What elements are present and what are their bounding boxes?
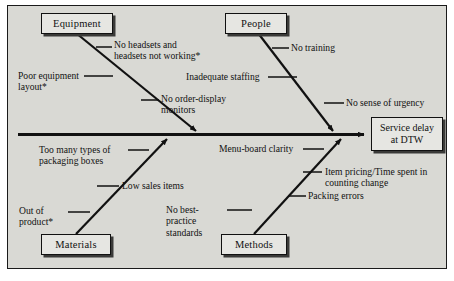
cause-label-packing-errors: Packing errors (308, 190, 394, 201)
cause-label-out-of-product: Out of product* (19, 205, 69, 228)
cause-label-low-sales-items: Low sales items (122, 180, 204, 191)
category-label-materials: Materials (55, 239, 96, 250)
cause-label-no-training: No training (291, 42, 361, 53)
cause-label-no-sense-of-urgency: No sense of urgency (346, 97, 446, 108)
cause-label-item-pricing-counting-change: Item pricing/Time spent in counting chan… (325, 166, 451, 189)
category-box-people[interactable]: People (225, 13, 287, 34)
cause-label-no-best-practice-standards: No best-practice standards (166, 204, 228, 238)
category-label-people: People (241, 18, 271, 29)
cause-label-too-many-packaging-boxes: Too many types of packaging boxes (39, 144, 131, 167)
category-label-methods: Methods (235, 239, 273, 250)
cause-label-no-headsets: No headsets and headsets not working* (114, 39, 224, 62)
category-box-equipment[interactable]: Equipment (41, 13, 113, 34)
category-box-methods[interactable]: Methods (221, 234, 287, 255)
cause-label-poor-equipment-layout: Poor equipment layout* (18, 70, 84, 93)
cause-label-inadequate-staffing: Inadequate staffing (186, 71, 268, 82)
fishbone-diagram-root: Equipment People Materials Methods Servi… (0, 0, 454, 281)
category-label-equipment: Equipment (53, 18, 101, 29)
category-box-materials[interactable]: Materials (41, 234, 111, 255)
effect-box[interactable]: Service delay at DTW (371, 117, 443, 151)
cause-label-no-order-display-monitors: No order-display monitors (161, 93, 247, 116)
effect-label-line1: Service delay (380, 122, 434, 134)
cause-label-menu-board-clarity: Menu-board clarity (219, 143, 305, 154)
effect-label-line2: at DTW (391, 134, 424, 146)
